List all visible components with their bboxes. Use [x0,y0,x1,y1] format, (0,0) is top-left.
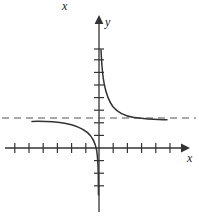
y-axis-arrowhead [95,15,104,24]
x-axis-label: x [187,152,192,164]
top-x-label: x [62,0,67,12]
graph-figure: x y x [0,0,199,221]
y-axis-label: y [105,16,110,28]
coordinate-plane [0,0,199,221]
curve-right-branch [101,50,167,120]
curve-left-branch [32,121,99,195]
